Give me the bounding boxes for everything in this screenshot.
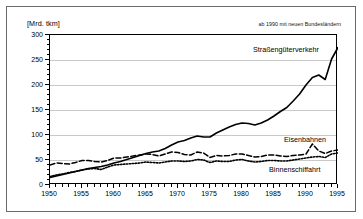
x-axis-tick-label: 1955 bbox=[73, 190, 89, 197]
figure-frame: [Mrd. tkm] ab 1990 mit neuen Bundeslände… bbox=[6, 6, 356, 212]
chart-figure: [Mrd. tkm] ab 1990 mit neuen Bundeslände… bbox=[0, 0, 363, 219]
chart-note: ab 1990 mit neuen Bundesländern bbox=[258, 21, 341, 27]
y-axis: 050100150200250300 bbox=[7, 34, 49, 185]
x-axis-tick-label: 1980 bbox=[233, 190, 249, 197]
series-lines bbox=[50, 35, 338, 185]
series-label-waterway: Binnenschiffahrt bbox=[269, 165, 320, 174]
x-axis-tick-label: 1975 bbox=[201, 190, 217, 197]
x-axis-tick-label: 1985 bbox=[265, 190, 281, 197]
x-axis-tick-label: 1965 bbox=[137, 190, 153, 197]
plot-area bbox=[49, 34, 337, 184]
y-axis-tick-label: 0 bbox=[39, 181, 43, 188]
y-axis-tick-label: 100 bbox=[31, 131, 43, 138]
y-axis-tick-label: 200 bbox=[31, 81, 43, 88]
x-axis-tick-label: 1950 bbox=[41, 190, 57, 197]
y-axis-tick-label: 300 bbox=[31, 31, 43, 38]
y-axis-tick-label: 250 bbox=[31, 56, 43, 63]
x-axis: 1950195519601965197019751980198519901995 bbox=[49, 184, 338, 214]
series-line bbox=[50, 48, 338, 178]
series-label-road: Straßengüterverkehr bbox=[253, 45, 319, 54]
y-axis-unit-label: [Mrd. tkm] bbox=[27, 19, 60, 28]
x-axis-tick-label: 1960 bbox=[105, 190, 121, 197]
x-axis-tick-label: 1995 bbox=[329, 190, 345, 197]
series-line bbox=[50, 144, 338, 165]
x-axis-tick-label: 1970 bbox=[169, 190, 185, 197]
series-label-rail: Eisenbahnen bbox=[284, 135, 326, 144]
y-axis-tick-label: 150 bbox=[31, 106, 43, 113]
y-axis-tick-label: 50 bbox=[35, 156, 43, 163]
x-axis-tick-label: 1990 bbox=[297, 190, 313, 197]
